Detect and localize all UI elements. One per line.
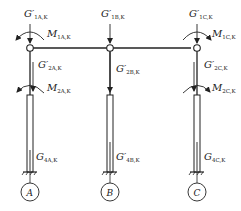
axis-label-c: C (194, 188, 201, 198)
hinge-c (194, 45, 201, 52)
frame-load-diagram: A G′1A,K M1A,K G′2A,K M2A,K G4A,K B G′1B… (0, 0, 241, 211)
hinge-a (27, 45, 34, 52)
label-m1c: M1C,K (211, 28, 237, 40)
label-g2c: G′2C,K (204, 59, 229, 71)
column-c: C G′1C,K M1C,K G′2C,K M2C,K G4C,K (183, 8, 237, 201)
hinge-b (107, 45, 114, 52)
label-m2a: M2A,K (46, 82, 71, 94)
label-g4c: G4C,K (204, 151, 226, 163)
label-g1b: G′1B,K (101, 8, 126, 20)
axis-label-b: B (106, 188, 114, 198)
label-g1c: G′1C,K (189, 8, 214, 20)
label-g2a: G′2A,K (38, 59, 62, 71)
label-g4b: G′4B,K (116, 151, 141, 163)
label-g1a: G′1A,K (24, 8, 48, 20)
column-b: B G′1B,K G′2B,K G′4B,K (101, 8, 141, 201)
column-a: A G′1A,K M1A,K G′2A,K M2A,K G4A,K (16, 8, 71, 201)
label-m1a: M1A,K (46, 28, 71, 40)
axis-label-a: A (26, 188, 34, 198)
label-g2b: G′2B,K (116, 63, 141, 75)
label-m2c: M2C,K (211, 82, 237, 94)
label-g4a: G4A,K (36, 151, 58, 163)
